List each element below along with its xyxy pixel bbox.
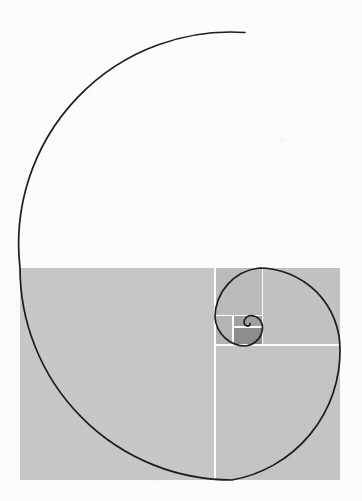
square-fills <box>20 268 340 480</box>
diagram-page: Golden spiral with Fibonacci squares <box>0 0 362 501</box>
square-fill-5 <box>215 316 233 346</box>
square-fill-3 <box>215 345 340 480</box>
square-fill-7 <box>233 327 263 345</box>
golden-spiral-figure <box>0 0 362 501</box>
